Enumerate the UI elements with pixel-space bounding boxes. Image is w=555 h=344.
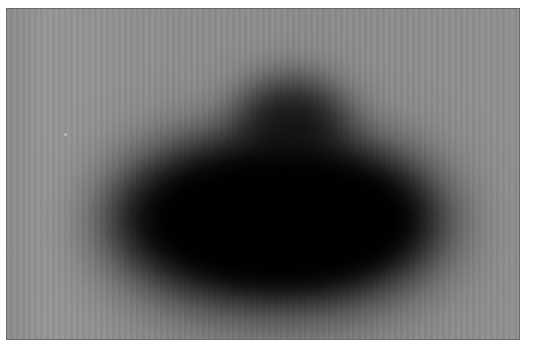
image-frame — [6, 8, 520, 340]
dust-speck — [64, 133, 67, 136]
blot-core — [157, 159, 407, 284]
